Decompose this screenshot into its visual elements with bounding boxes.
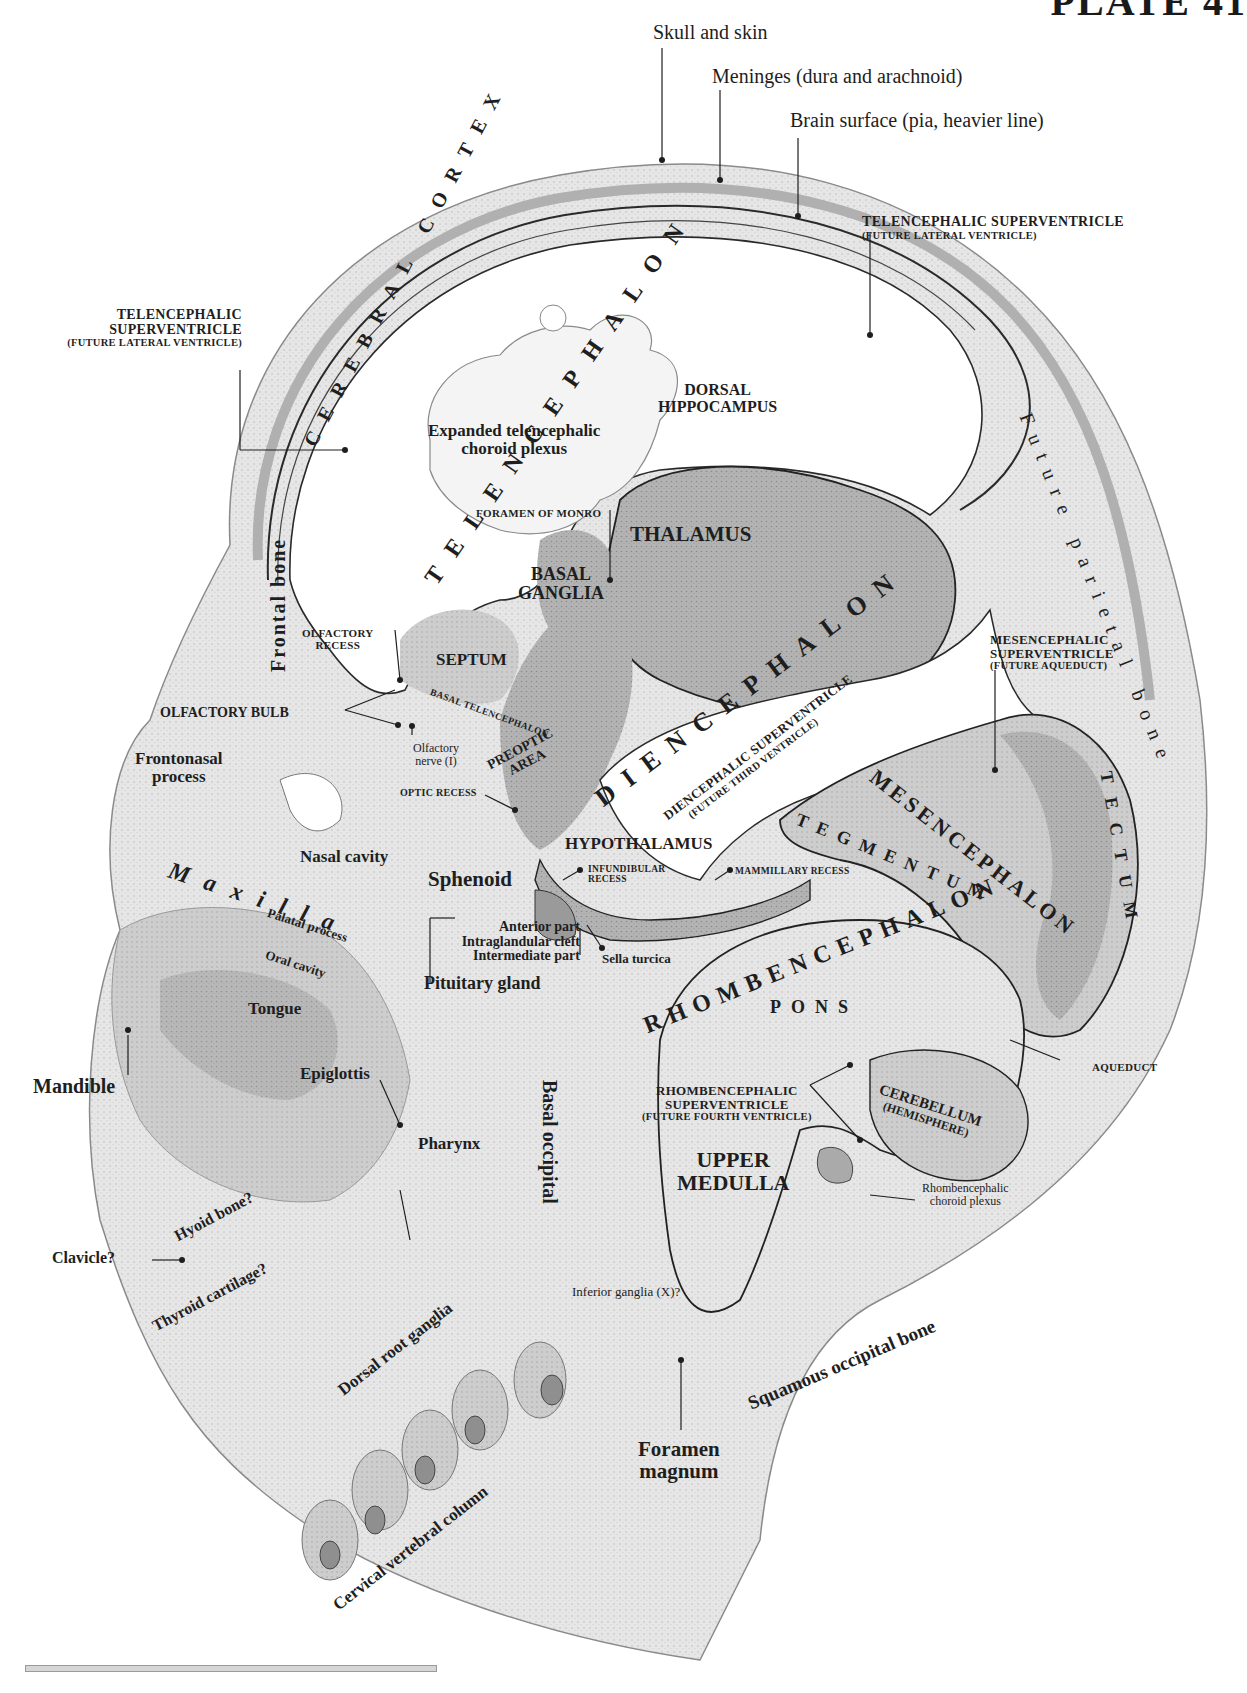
label-nasal-cavity: Nasal cavity [300,848,388,866]
label-pharynx: Pharynx [418,1135,480,1153]
label-aqueduct: AQUEDUCT [1092,1062,1157,1074]
label-frontal-bone: Frontal bone [268,538,289,672]
label-clavicle: Clavicle? [52,1250,115,1267]
label-pituitary-gland: Pituitary gland [424,974,541,993]
label-foramen-magnum: Foramen magnum [638,1438,720,1482]
label-pons: PONS [770,998,858,1017]
scale-bar [25,1665,437,1672]
label-septum: SEPTUM [436,651,507,669]
label-telencephalic-superventricle-left: TELENCEPHALIC SUPERVENTRICLE (FUTURE LAT… [20,308,242,348]
label-frontonasal-process: Frontonasal process [135,750,223,786]
label-dorsal-hippocampus: DORSAL HIPPOCAMPUS [658,382,777,416]
label-mesencephalic-superventricle: MESENCEPHALIC SUPERVENTRICLE (FUTURE AQU… [990,633,1114,671]
label-foramen-of-monro: FORAMEN OF MONRO [476,508,601,520]
label-brain-surface: Brain surface (pia, heavier line) [790,110,1044,131]
label-mandible: Mandible [33,1076,115,1097]
label-tongue: Tongue [248,1000,301,1018]
label-sella-turcica: Sella turcica [602,952,671,966]
label-basal-ganglia: BASAL GANGLIA [518,565,604,603]
label-olfactory-bulb: OLFACTORY BULB [160,706,289,721]
label-rhombencephalic-superventricle: RHOMBENCEPHALIC SUPERVENTRICLE (FUTURE F… [642,1084,812,1122]
label-epiglottis: Epiglottis [300,1065,370,1083]
label-inferior-ganglia: Inferior ganglia (X)? [572,1285,680,1299]
label-basal-occipital: Basal occipital [539,1080,560,1204]
label-rhombencephalic-choroid-plexus: Rhombencephalic choroid plexus [922,1182,1009,1207]
label-sphenoid: Sphenoid [428,868,512,890]
label-infundibular-recess: INFUNDIBULAR RECESS [588,865,666,885]
label-thalamus: THALAMUS [630,523,751,545]
label-telencephalic-superventricle-right: TELENCEPHALIC SUPERVENTRICLE (FUTURE LAT… [862,213,1124,241]
label-mammillary-recess: MAMMILLARY RECESS [735,867,849,877]
label-olfactory-recess: OLFACTORY RECESS [302,628,374,651]
label-pituitary-parts: Anterior part Intraglandular cleft Inter… [430,920,580,964]
label-hypothalamus: HYPOTHALAMUS [565,835,712,853]
label-meninges: Meninges (dura and arachnoid) [712,66,962,87]
label-choroid-plexus: Expanded telencephalic choroid plexus [428,422,600,458]
label-optic-recess: OPTIC RECESS [400,788,477,799]
label-upper-medulla: UPPER MEDULLA [677,1148,789,1194]
label-skull-and-skin: Skull and skin [653,22,767,43]
label-olfactory-nerve: Olfactory nerve (I) [413,742,459,767]
